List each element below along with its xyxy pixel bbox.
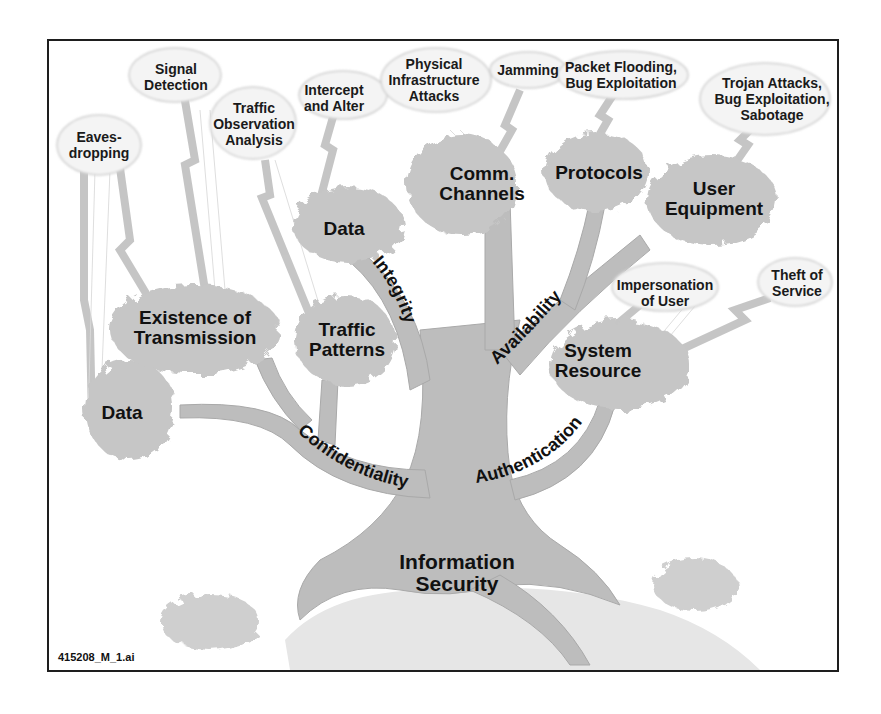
bolt-signal <box>184 95 205 290</box>
leaf-comm-channels: Comm.Channels <box>439 164 525 204</box>
threat-trojan-attacks: Trojan Attacks,Bug Exploitation,Sabotage <box>714 75 829 123</box>
threat-intercept-alter: Interceptand Alter <box>304 82 364 114</box>
bolt-intercept <box>320 110 335 200</box>
bolt-eavesdrop-1 <box>84 168 92 420</box>
threat-eavesdropping: Eaves-dropping <box>69 129 130 161</box>
threat-physical-infrastructure: PhysicalInfrastructureAttacks <box>388 56 479 104</box>
leaf-protocols: Protocols <box>555 163 643 183</box>
leaf-data-integrity: Data <box>323 219 364 239</box>
threat-signal-detection: SignalDetection <box>144 61 208 93</box>
leaf-data-confidentiality: Data <box>101 403 142 423</box>
leaf-system-resource: SystemResource <box>555 341 642 381</box>
leaf-traffic-patterns: TrafficPatterns <box>309 320 385 360</box>
threat-theft-of-service: Theft ofService <box>771 267 822 299</box>
file-name-caption: 415208_M_1.ai <box>58 651 134 663</box>
threat-packet-flooding: Packet Flooding,Bug Exploitation <box>565 59 677 91</box>
root-information-security: InformationSecurity <box>399 551 515 595</box>
threat-impersonation: Impersonationof User <box>617 277 713 309</box>
bolt-eavesdrop-2 <box>120 168 150 300</box>
bush-right-icon <box>653 559 737 611</box>
leaf-existence-of-transmission: Existence ofTransmission <box>134 308 257 348</box>
bush-left-icon <box>160 594 260 650</box>
threat-traffic-observation: TrafficObservationAnalysis <box>213 100 295 148</box>
threat-jamming: Jamming <box>497 62 558 78</box>
leaf-user-equipment: UserEquipment <box>665 179 763 219</box>
